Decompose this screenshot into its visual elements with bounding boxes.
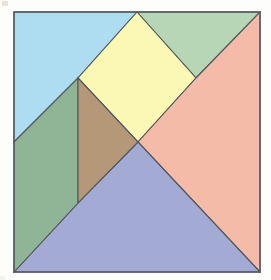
- tangram-figure: [0, 0, 271, 280]
- tangram-diagram: [0, 0, 271, 280]
